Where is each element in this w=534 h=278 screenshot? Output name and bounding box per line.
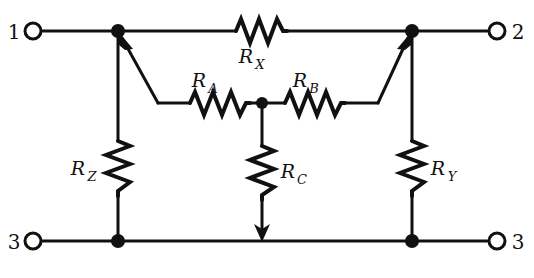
- node-top-right-dot: [405, 24, 419, 38]
- circuit-schematic-canvas: 1 2 3 3 R X R A R B R Z R C R Y: [0, 0, 534, 278]
- node-bottom-right-dot: [405, 234, 419, 248]
- resistor-ra-label-subscript: A: [207, 81, 217, 96]
- terminal-2-circle[interactable]: [489, 23, 505, 39]
- resistor-rz-label-base: R: [70, 157, 85, 179]
- resistor-rc-label-subscript: C: [297, 172, 307, 187]
- arrowhead-group: [118, 31, 412, 242]
- terminal-3-left-circle[interactable]: [25, 233, 41, 249]
- junction-dot-group: [111, 24, 419, 248]
- resistor-ry-label-subscript: Y: [448, 169, 458, 184]
- resistor-rx-label-base: R: [238, 45, 253, 67]
- resistor-rb-label-subscript: B: [308, 81, 319, 96]
- resistor-ry-label-base: R: [430, 157, 445, 179]
- resistor-rx-zigzag: [236, 19, 287, 43]
- resistor-rc-zigzag: [250, 146, 274, 200]
- terminal-3-left-label: 3: [8, 230, 21, 254]
- resistor-rc-label-base: R: [280, 160, 295, 182]
- wire-group: [41, 31, 489, 241]
- terminal-1-label: 1: [8, 20, 21, 44]
- terminal-3-right-label: 3: [512, 230, 525, 254]
- resistor-ra-zigzag: [190, 92, 250, 115]
- circuit-diagram-page: 1 2 3 3 R X R A R B R Z R C R Y: [0, 0, 534, 278]
- terminal-3-right-circle[interactable]: [489, 233, 505, 249]
- resistor-rb-label-base: R: [292, 69, 307, 91]
- node-bottom-left-dot: [111, 234, 125, 248]
- terminal-circle-group: [25, 23, 505, 249]
- terminal-1-circle[interactable]: [25, 23, 41, 39]
- resistor-rz-label-subscript: Z: [86, 169, 97, 184]
- terminal-2-label: 2: [512, 20, 525, 44]
- terminal-label-group: 1 2 3 3: [8, 20, 525, 254]
- node-center-dot: [256, 97, 268, 109]
- resistor-rz-zigzag: [106, 141, 130, 196]
- resistor-rx-label-subscript: X: [254, 57, 265, 72]
- node-top-left-dot: [111, 24, 125, 38]
- resistor-ry-zigzag: [400, 141, 424, 196]
- resistor-ra-label-base: R: [191, 69, 206, 91]
- resistor-symbol-group: [106, 19, 424, 200]
